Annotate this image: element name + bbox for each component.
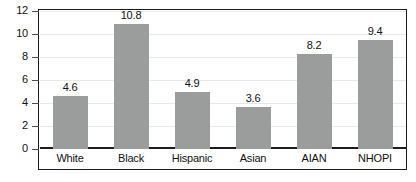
bar-value-label: 4.6 bbox=[40, 82, 101, 93]
y-axis-tick-label: 2 bbox=[22, 120, 28, 131]
bar[interactable] bbox=[297, 54, 332, 148]
y-axis-tick bbox=[32, 149, 39, 150]
bar-value-label: 10.8 bbox=[101, 10, 162, 21]
bar-value-label: 3.6 bbox=[223, 93, 284, 104]
y-axis-tick bbox=[32, 80, 39, 81]
bar-series: 4.610.84.93.68.29.4 bbox=[40, 11, 406, 149]
bar[interactable] bbox=[114, 24, 149, 148]
y-axis-tick-label: 0 bbox=[22, 143, 28, 154]
x-axis-labels: WhiteBlackHispanicAsianAIANNHOPI bbox=[40, 152, 406, 168]
bar-value-label: 4.9 bbox=[162, 78, 223, 89]
bar[interactable] bbox=[53, 96, 88, 149]
x-axis-label: AIAN bbox=[284, 152, 345, 164]
bar-value-label: 9.4 bbox=[345, 26, 406, 37]
bar[interactable] bbox=[175, 92, 210, 148]
y-axis-tick bbox=[32, 11, 39, 12]
bar-slot: 10.8 bbox=[101, 11, 162, 149]
y-axis-tick-label: 4 bbox=[22, 97, 28, 108]
bar[interactable] bbox=[358, 40, 393, 148]
x-axis-label: Asian bbox=[223, 152, 284, 164]
y-axis-tick-label: 12 bbox=[16, 5, 28, 16]
bar-slot: 9.4 bbox=[345, 11, 406, 149]
y-axis-tick-label: 10 bbox=[16, 28, 28, 39]
y-axis-tick-label: 6 bbox=[22, 74, 28, 85]
bar-slot: 8.2 bbox=[284, 11, 345, 149]
y-axis-tick-label: 8 bbox=[22, 51, 28, 62]
bar-value-label: 8.2 bbox=[284, 40, 345, 51]
bar[interactable] bbox=[236, 107, 271, 148]
x-axis-label: NHOPI bbox=[345, 152, 406, 164]
y-axis-tick bbox=[32, 34, 39, 35]
y-axis-tick bbox=[32, 126, 39, 127]
bar-slot: 3.6 bbox=[223, 11, 284, 149]
x-axis-label: Black bbox=[101, 152, 162, 164]
x-axis-label: Hispanic bbox=[162, 152, 223, 164]
x-axis-label: White bbox=[40, 152, 101, 164]
bar-slot: 4.6 bbox=[40, 11, 101, 149]
bar-chart: 024681012 4.610.84.93.68.29.4 WhiteBlack… bbox=[0, 0, 416, 182]
y-axis-tick bbox=[32, 103, 39, 104]
bar-slot: 4.9 bbox=[162, 11, 223, 149]
y-axis-tick bbox=[32, 57, 39, 58]
